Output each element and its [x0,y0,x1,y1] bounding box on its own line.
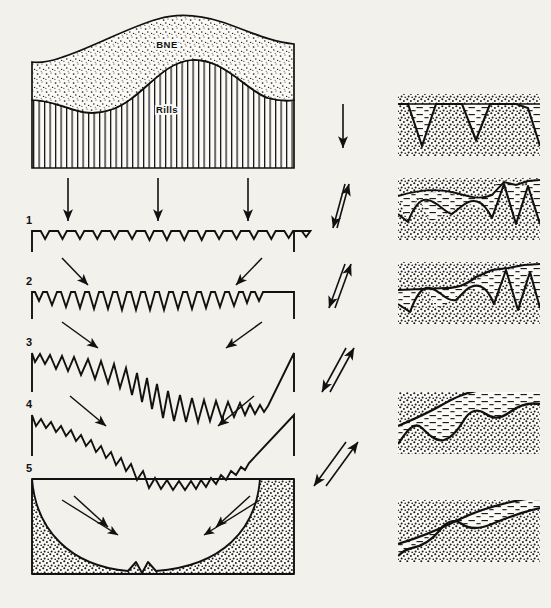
stage-label-4: 4 [26,398,33,410]
rill-infill-panel-4 [398,386,540,454]
figure-root: BNE Rills 1 2 3 4 [0,0,551,608]
stage-label-3: 3 [26,336,32,348]
rill-infill-panel-5 [398,496,540,562]
rills-label: Rills [156,104,178,115]
rill-infill-panel-1 [398,94,540,156]
stage-label-1: 1 [26,214,32,226]
stage-label-2: 2 [26,275,32,287]
rill-infill-panel-2 [398,178,540,240]
bne-label: BNE [156,39,177,50]
rill-evolution-figure: BNE Rills 1 2 3 4 [0,0,551,608]
rill-infill-panel-3 [398,262,540,324]
stage-label-5: 5 [26,462,32,474]
